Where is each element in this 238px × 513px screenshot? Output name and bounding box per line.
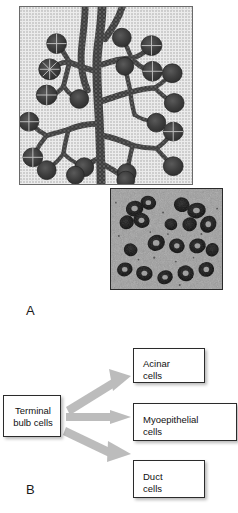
box-terminal-bulb-cells[interactable]: Terminal bulb cells — [3, 395, 61, 437]
panel-a: A — [0, 0, 238, 335]
box-myoepithelial-cells-label: Myoepithelial cells — [143, 414, 198, 437]
box-terminal-bulb-cells-label: Terminal bulb cells — [10, 405, 56, 428]
panel-b: Terminal bulb cells Acinar cells Myoepit… — [0, 335, 238, 513]
box-myoepithelial-cells[interactable]: Myoepithelial cells — [133, 403, 237, 441]
box-acinar-cells[interactable]: Acinar cells — [133, 348, 205, 383]
arrow-to-myoepithelial-icon — [66, 410, 131, 424]
branching-duct-tree-illustration — [19, 6, 193, 185]
box-duct-cells[interactable]: Duct cells — [133, 460, 205, 498]
histology-micrograph-inset — [110, 188, 223, 290]
panel-b-letter: B — [26, 482, 35, 497]
arrow-to-duct-icon — [63, 427, 131, 462]
panel-a-letter: A — [26, 303, 35, 318]
duct-tree-svg — [20, 7, 192, 184]
box-duct-cells-label: Duct cells — [143, 471, 163, 494]
micrograph-svg — [111, 189, 222, 289]
box-acinar-cells-label: Acinar cells — [143, 358, 170, 381]
arrow-to-acinar-icon — [66, 369, 131, 415]
